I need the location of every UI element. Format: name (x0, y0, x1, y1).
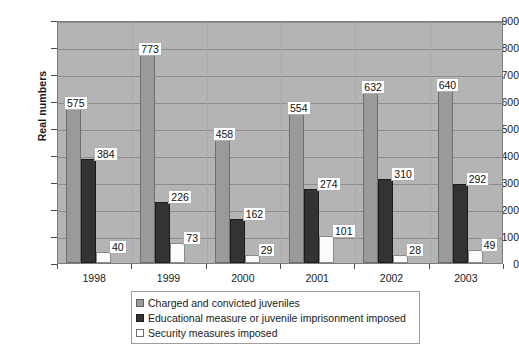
x-axis-tick-label: 1999 (134, 272, 204, 284)
bar (319, 236, 334, 263)
category-separator (132, 22, 133, 263)
gridline (58, 130, 502, 131)
gridline (58, 76, 502, 77)
x-axis-tick-label: 2003 (431, 272, 501, 284)
gridline (58, 103, 502, 104)
gridline (58, 22, 502, 23)
plot-area (57, 21, 503, 264)
y-axis-title: Real numbers (36, 26, 48, 186)
bar-chart: Real numbers 010020030040050060070080090… (0, 0, 519, 352)
legend-item: Charged and convicted juveniles (136, 295, 415, 310)
bar (378, 179, 393, 263)
gridline (58, 184, 502, 185)
category-separator (430, 22, 431, 263)
bar (140, 54, 155, 263)
bar (170, 243, 185, 263)
legend-item: Security measures imposed (136, 325, 415, 340)
data-label: 773 (138, 42, 162, 56)
legend-item: Educational measure or juvenile imprison… (136, 310, 415, 325)
gridline (58, 211, 502, 212)
category-separator (281, 22, 282, 263)
x-axis-tick-mark (131, 264, 132, 269)
data-label: 274 (317, 177, 341, 191)
x-axis-tick-label: 2002 (357, 272, 427, 284)
category-separator (207, 22, 208, 263)
legend-label: Educational measure or juvenile imprison… (148, 312, 406, 324)
legend-label: Charged and convicted juveniles (148, 297, 300, 309)
x-axis-tick-mark (354, 264, 355, 269)
data-label: 292 (466, 172, 490, 186)
data-label: 73 (183, 231, 201, 245)
bar (438, 90, 453, 263)
gridline (58, 238, 502, 239)
bar (289, 113, 304, 263)
data-label: 28 (406, 243, 424, 257)
data-label: 40 (109, 240, 127, 254)
bar (230, 219, 245, 263)
x-axis-tick-mark (429, 264, 430, 269)
bar (215, 139, 230, 263)
legend-label: Security measures imposed (148, 327, 278, 339)
chart-legend: Charged and convicted juvenilesEducation… (131, 291, 420, 344)
bar (453, 184, 468, 263)
legend-swatch-icon (136, 299, 144, 307)
bar (304, 189, 319, 263)
legend-swatch-icon (136, 314, 144, 322)
x-axis-tick-mark (57, 264, 58, 269)
data-label: 226 (168, 190, 192, 204)
x-axis-tick-mark (206, 264, 207, 269)
data-label: 310 (391, 167, 415, 181)
x-axis-tick-label: 1998 (59, 272, 129, 284)
x-axis-tick-label: 2000 (208, 272, 278, 284)
legend-swatch-icon (136, 329, 144, 337)
data-label: 632 (361, 80, 385, 94)
bar (363, 92, 378, 263)
data-label: 162 (243, 207, 267, 221)
data-label: 101 (332, 224, 356, 238)
x-axis-tick-mark (280, 264, 281, 269)
x-axis-tick-mark (503, 264, 504, 269)
data-label: 384 (94, 147, 118, 161)
data-label: 640 (436, 78, 460, 92)
data-label: 575 (64, 96, 88, 110)
data-label: 29 (258, 243, 276, 257)
bar (155, 202, 170, 263)
x-axis-tick-label: 2001 (282, 272, 352, 284)
bar (81, 159, 96, 263)
gridline (58, 157, 502, 158)
data-label: 49 (481, 238, 499, 252)
gridline (58, 49, 502, 50)
bar (66, 108, 81, 263)
data-label: 554 (287, 101, 311, 115)
data-label: 458 (213, 127, 237, 141)
